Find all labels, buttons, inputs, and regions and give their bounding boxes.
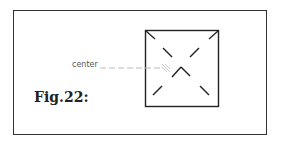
diagonal-dashes [146,31,218,95]
figure-caption: Fig.22: [34,89,89,105]
center-label: center [72,60,98,69]
center-marker [162,64,170,72]
square-diagram [0,0,281,142]
